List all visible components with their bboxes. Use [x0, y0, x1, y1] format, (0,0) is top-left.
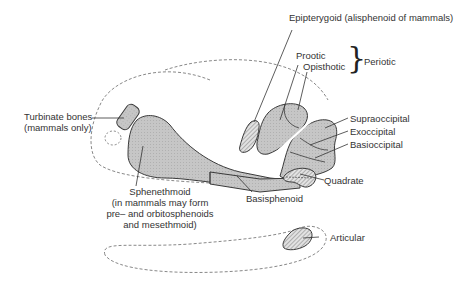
- label-turbinate-line1: Turbinate bones: [24, 111, 92, 122]
- label-opisthotic: Opisthotic: [303, 61, 345, 72]
- epipterygoid-shape: [240, 121, 260, 153]
- nostril-dashed: [105, 131, 121, 145]
- label-epipterygoid: Epipterygoid (alisphenoid of mammals): [289, 12, 453, 23]
- label-sphenethmoid-line3: pre– and orbitosphenoids: [100, 208, 220, 219]
- label-exoccipital: Exoccipital: [350, 126, 395, 137]
- label-basisphenoid: Basisphenoid: [246, 193, 303, 204]
- label-supraoccipital: Supraoccipital: [350, 113, 410, 124]
- skull-diagram: [0, 0, 475, 288]
- label-quadrate: Quadrate: [324, 175, 364, 186]
- label-articular: Articular: [330, 232, 365, 243]
- label-sphenethmoid-line1: Sphenethmoid: [100, 186, 220, 197]
- label-sphenethmoid-line4: and mesethmoid): [100, 219, 220, 230]
- label-sphenethmoid-line2: (in mammals may form: [100, 197, 220, 208]
- articular-shape: [283, 228, 312, 250]
- label-basioccipital: Basioccipital: [350, 139, 403, 150]
- label-periotic: Periotic: [364, 56, 396, 67]
- label-turbinate-line2: (mammals only): [24, 122, 92, 133]
- label-prootic: Prootic: [296, 50, 326, 61]
